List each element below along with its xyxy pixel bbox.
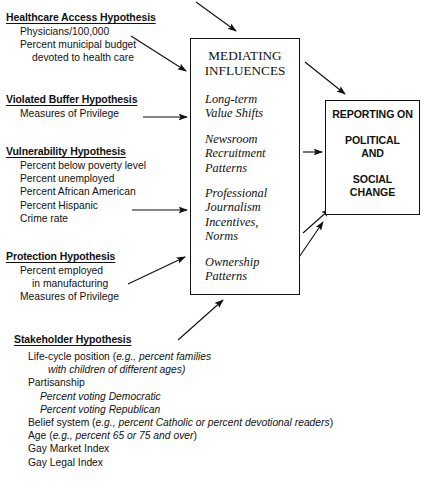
hypothesis-stakeholder: Stakeholder Hypothesis Life-cycle positi… (14, 333, 333, 469)
mediating-line: Newsroom (205, 132, 299, 146)
hypothesis-item-list: Percent below poverty level Percent unem… (6, 159, 146, 225)
reporting-line-3: AND (326, 147, 419, 160)
hypothesis-item: Measures of Privilege (6, 107, 137, 120)
hypothesis-title: Stakeholder Hypothesis (14, 333, 333, 345)
hypothesis-item-list: Physicians/100,000 Percent municipal bud… (6, 25, 156, 65)
reporting-line-1: REPORTING ON (326, 108, 419, 121)
stakeholder-belief-plain: Belief system ( (28, 417, 96, 428)
hypothesis-item: Percent unemployed (6, 172, 146, 185)
mediating-influences-box: MEDIATING INFLUENCES Long-term Value Shi… (190, 38, 300, 295)
hypothesis-title: Vulnerability Hypothesis (6, 145, 146, 157)
hypothesis-item: Gay Legal Index (14, 456, 333, 469)
arrow-protection-to-mediating (128, 257, 185, 284)
mediating-line: Ownership (205, 255, 299, 269)
mediating-group-long-term-value-shifts: Long-term Value Shifts (205, 92, 299, 121)
mediating-line: Value Shifts (205, 106, 299, 120)
hypothesis-item: Physicians/100,000 (6, 25, 156, 38)
stakeholder-lifecycle-plain: Life-cycle position ( (28, 351, 116, 362)
hypothesis-item: Measures of Privilege (6, 290, 119, 303)
hypothesis-item-list: Life-cycle position (e.g., percent famil… (14, 350, 333, 469)
stakeholder-age-italic: e.g., percent 65 or 75 and over (53, 430, 194, 441)
hypothesis-healthcare-access: Healthcare Access Hypothesis Physicians/… (6, 11, 156, 65)
hypothesis-item: in manufacturing (6, 277, 119, 290)
mediating-group-ownership-patterns: Ownership Patterns (205, 255, 299, 284)
hypothesis-item: Age (e.g., percent 65 or 75 and over) (14, 429, 333, 442)
stakeholder-belief-italic: e.g., percent Catholic or percent devoti… (96, 417, 330, 428)
hypothesis-item: Gay Market Index (14, 442, 333, 455)
mediating-title-line-2: INFLUENCES (191, 63, 299, 78)
stakeholder-belief-close: ) (330, 417, 333, 428)
hypothesis-item: Percent below poverty level (6, 159, 146, 172)
mediating-line: Patterns (205, 161, 299, 175)
hypothesis-item: Percent municipal budget (6, 38, 156, 51)
stakeholder-age-plain: Age ( (28, 430, 53, 441)
mediating-line: Journalism (205, 200, 299, 214)
hypothesis-vulnerability: Vulnerability Hypothesis Percent below p… (6, 145, 146, 225)
stakeholder-age-close: ) (193, 430, 196, 441)
reporting-outcome-box: REPORTING ON POLITICAL AND SOCIAL CHANGE (325, 100, 420, 215)
hypothesis-title: Protection Hypothesis (6, 250, 119, 262)
mediating-line: Professional (205, 186, 299, 200)
arrow-mediating-to-reporting (305, 62, 345, 94)
mediating-title-line-1: MEDIATING (191, 48, 299, 63)
hypothesis-item: Percent Hispanic (6, 199, 146, 212)
stakeholder-lifecycle-italic: e.g., percent families (116, 351, 211, 362)
arrow-top-into-mediating (196, 2, 236, 31)
hypothesis-item: with children of different ages) (14, 363, 333, 376)
hypothesis-item: Percent voting Democratic (14, 390, 333, 403)
hypothesis-item: Percent employed (6, 264, 119, 277)
hypothesis-item: Percent voting Republican (14, 403, 333, 416)
reporting-line-5: CHANGE (326, 186, 419, 199)
hypothesis-title: Violated Buffer Hypothesis (6, 93, 137, 105)
mediating-line: Norms (205, 229, 299, 243)
hypothesis-protection: Protection Hypothesis Percent employed i… (6, 250, 119, 304)
hypothesis-title: Healthcare Access Hypothesis (6, 11, 156, 23)
reporting-line-4: SOCIAL (326, 173, 419, 186)
hypothesis-item: Crime rate (6, 212, 146, 225)
mediating-group-newsroom-recruitment-patterns: Newsroom Recruitment Patterns (205, 132, 299, 175)
hypothesis-item: Partisanship (14, 376, 333, 389)
hypothesis-item-list: Percent employed in manufacturing Measur… (6, 264, 119, 304)
mediating-line: Incentives, (205, 215, 299, 229)
hypothesis-item: Life-cycle position (e.g., percent famil… (14, 350, 333, 363)
mediating-group-professional-journalism-incentives-norms: Professional Journalism Incentives, Norm… (205, 186, 299, 244)
hypothesis-item: Percent African American (6, 185, 146, 198)
reporting-line-2: POLITICAL (326, 134, 419, 147)
hypothesis-item: Belief system (e.g., percent Catholic or… (14, 416, 333, 429)
mediating-line: Recruitment (205, 146, 299, 160)
diagram-canvas: Healthcare Access Hypothesis Physicians/… (0, 0, 430, 492)
hypothesis-violated-buffer: Violated Buffer Hypothesis Measures of P… (6, 93, 137, 120)
mediating-line: Long-term (205, 92, 299, 106)
hypothesis-item: devoted to health care (6, 51, 156, 64)
hypothesis-item-list: Measures of Privilege (6, 107, 137, 120)
mediating-line: Patterns (205, 269, 299, 283)
